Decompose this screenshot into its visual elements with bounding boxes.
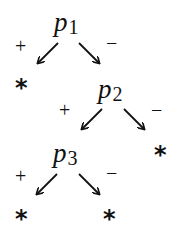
node-p2-label: p — [98, 74, 112, 104]
leaf-p3-minus: * — [103, 207, 116, 231]
node-p3-label: p — [53, 138, 67, 168]
edge-p2-plus — [82, 109, 102, 129]
sign-p1-plus: + — [15, 36, 26, 56]
leaf-p1-plus: * — [15, 76, 28, 100]
node-p3: p3 — [53, 140, 78, 168]
node-p1-label: p — [54, 7, 68, 37]
edge-p3-minus — [79, 174, 99, 194]
edge-p1-minus — [79, 43, 99, 63]
leaf-p2-minus: * — [154, 143, 167, 167]
edge-p2-minus — [124, 109, 144, 129]
leaf-p3-plus: * — [15, 207, 28, 231]
sign-p1-minus: − — [106, 33, 117, 53]
node-p1: p1 — [54, 9, 79, 37]
edge-p1-plus — [38, 43, 58, 63]
node-p2-subscript: 2 — [113, 83, 123, 105]
edges — [0, 0, 176, 233]
sign-p2-minus: − — [151, 100, 162, 120]
edge-p3-plus — [37, 174, 57, 194]
sign-p2-plus: + — [59, 100, 70, 120]
sign-p3-minus: − — [106, 163, 117, 183]
node-p1-subscript: 1 — [69, 16, 79, 38]
node-p2: p2 — [98, 76, 123, 104]
node-p3-subscript: 3 — [68, 147, 78, 169]
sign-p3-plus: + — [15, 166, 26, 186]
